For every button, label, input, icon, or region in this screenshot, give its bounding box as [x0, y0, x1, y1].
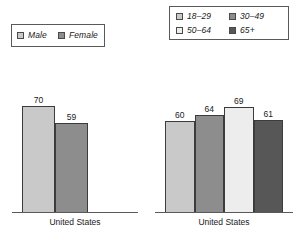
gender-chart-plot-area: 70 59 [0, 60, 150, 213]
gender-chart-legend: Male Female [11, 24, 105, 47]
bar-value-male: 70 [22, 96, 55, 105]
age-chart-panel: 18–29 30–49 50–64 65+ 60 64 [149, 0, 299, 234]
legend-swatch-65-plus [229, 27, 236, 34]
bar-value-30-49: 64 [195, 105, 225, 114]
legend-label-30-49: 30–49 [240, 12, 264, 21]
legend-item-female: Female [58, 31, 99, 40]
age-chart-plot-area: 60 64 69 61 [149, 60, 299, 213]
legend-swatch-50-64 [176, 27, 183, 34]
legend-label-male: Male [28, 31, 47, 40]
bar-column-18-29: 60 [165, 60, 195, 213]
legend-item-male: Male [17, 31, 58, 40]
bar-column-male: 70 [22, 60, 55, 213]
legend-item-18-29: 18–29 [176, 9, 229, 23]
legend-swatch-female [58, 32, 65, 39]
bar-30-49 [195, 115, 225, 213]
legend-label-65-plus: 65+ [240, 26, 255, 35]
bar-male [22, 106, 55, 213]
gender-chart-panel: Male Female 70 59 United States [0, 0, 150, 234]
bar-value-female: 59 [55, 113, 88, 122]
legend-swatch-30-49 [229, 13, 236, 20]
legend-item-30-49: 30–49 [229, 9, 282, 23]
legend-item-50-64: 50–64 [176, 23, 229, 37]
age-chart-axis-line [155, 212, 293, 213]
legend-label-18-29: 18–29 [187, 12, 211, 21]
legend-item-65-plus: 65+ [229, 23, 282, 37]
bar-value-18-29: 60 [165, 111, 195, 120]
bar-value-50-64: 69 [224, 97, 254, 106]
bar-65-plus [254, 120, 284, 213]
age-chart-legend: 18–29 30–49 50–64 65+ [169, 6, 289, 40]
bar-column-female: 59 [55, 60, 88, 213]
legend-label-50-64: 50–64 [187, 26, 211, 35]
bar-column-65-plus: 61 [254, 60, 284, 213]
bar-column-30-49: 64 [195, 60, 225, 213]
age-chart-x-axis-label: United States [149, 218, 299, 227]
legend-swatch-male [17, 32, 24, 39]
bar-50-64 [224, 107, 254, 213]
bar-value-65-plus: 61 [254, 110, 284, 119]
bar-18-29 [165, 121, 195, 213]
gender-chart-x-axis-label: United States [0, 218, 150, 227]
gender-chart-axis-line [12, 212, 138, 213]
bar-female [55, 123, 88, 213]
bar-column-50-64: 69 [224, 60, 254, 213]
legend-label-female: Female [69, 31, 98, 40]
legend-swatch-18-29 [176, 13, 183, 20]
